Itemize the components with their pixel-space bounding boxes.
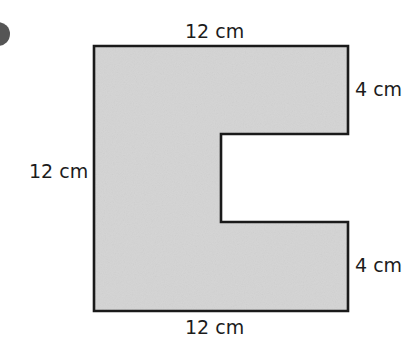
label-left-height: 12 cm (29, 162, 88, 181)
label-right-bottom-arm: 4 cm (355, 256, 402, 275)
label-bottom-width: 12 cm (185, 318, 244, 337)
label-top-width: 12 cm (185, 22, 244, 41)
diagram-canvas: 12 cm 12 cm 12 cm 4 cm 4 cm (0, 0, 412, 349)
label-right-top-arm: 4 cm (355, 80, 402, 99)
